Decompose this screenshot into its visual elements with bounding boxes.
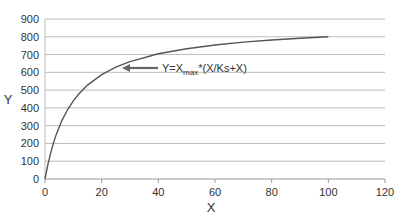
grid-lines	[45, 19, 385, 183]
x-tick-label: 60	[209, 186, 221, 198]
x-tick-label: 0	[42, 186, 48, 198]
y-tick-label: 0	[33, 173, 39, 185]
annotation-label: Y=Xmax*(X/Ks+X)	[162, 62, 247, 77]
y-tick-label: 200	[21, 137, 39, 149]
y-tick-label: 100	[21, 155, 39, 167]
y-tick-labels: 0100200300400500600700800900	[21, 13, 39, 185]
annotation-arrow-head	[122, 64, 130, 72]
chart: 0100200300400500600700800900 02040608010…	[0, 0, 403, 221]
x-tick-label: 20	[96, 186, 108, 198]
y-tick-label: 400	[21, 102, 39, 114]
y-tick-label: 600	[21, 66, 39, 78]
x-axis-label: X	[207, 200, 216, 215]
annotation: Y=Xmax*(X/Ks+X)	[122, 62, 247, 77]
y-tick-label: 500	[21, 84, 39, 96]
x-tick-label: 120	[376, 186, 394, 198]
x-tick-label: 80	[266, 186, 278, 198]
x-tick-labels: 020406080100120	[42, 186, 394, 198]
y-tick-label: 800	[21, 31, 39, 43]
x-tick-label: 100	[319, 186, 337, 198]
y-tick-label: 700	[21, 49, 39, 61]
y-tick-label: 900	[21, 13, 39, 25]
y-axis-label: Y	[4, 92, 13, 107]
x-tick-label: 40	[152, 186, 164, 198]
y-tick-label: 300	[21, 120, 39, 132]
